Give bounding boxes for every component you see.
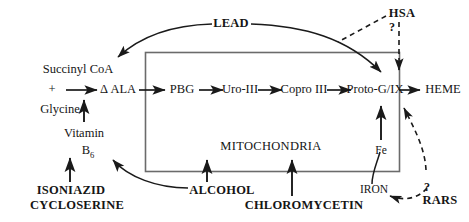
label-rars-question: ? bbox=[424, 181, 430, 194]
line-iron-to-fe bbox=[372, 152, 380, 184]
label-proto-g-ix: Proto-G/IX bbox=[347, 83, 404, 96]
label-cycloserine: CYCLOSERINE bbox=[30, 199, 124, 212]
label-succinyl-coa: Succinyl CoA bbox=[43, 63, 113, 76]
arrow-rars-to-iron bbox=[390, 188, 427, 199]
label-rars: RARS bbox=[423, 194, 458, 207]
arrow-alcohol-to-vitaminb6 bbox=[113, 160, 188, 188]
label-vitamin-b-subscript: 6 bbox=[90, 150, 94, 160]
heme-pathway-diagram: Succinyl CoA + Glycine Δ ALA PBG Uro-III… bbox=[0, 0, 469, 222]
label-vitamin: Vitamin bbox=[64, 127, 104, 140]
label-chloromycetin: CHLOROMYCETIN bbox=[245, 199, 364, 212]
label-alcohol: ALCOHOL bbox=[189, 184, 254, 197]
label-heme: HEME bbox=[425, 83, 460, 96]
label-lead: LEAD bbox=[213, 17, 249, 30]
label-vitamin-b6: B6 bbox=[82, 144, 95, 159]
mitochondria-box bbox=[146, 53, 400, 172]
label-hsa: HSA bbox=[389, 7, 415, 20]
label-plus-sign: + bbox=[48, 83, 55, 96]
label-copro-iii: Copro III bbox=[281, 83, 328, 96]
label-iron: IRON bbox=[360, 183, 388, 195]
label-isoniazid: ISONIAZID bbox=[37, 184, 106, 197]
arrow-lead-to-protog bbox=[251, 24, 381, 72]
label-pbg: PBG bbox=[170, 83, 194, 96]
label-hsa-question: ? bbox=[389, 21, 395, 34]
label-fe: Fe bbox=[375, 144, 387, 156]
arrow-rars-to-heme bbox=[404, 108, 426, 170]
label-uro-iii: Uro-III bbox=[222, 83, 258, 96]
label-glycine: Glycine bbox=[40, 103, 80, 116]
line-hsa-branch bbox=[338, 16, 386, 42]
label-delta-ala: Δ ALA bbox=[100, 83, 136, 96]
label-mitochondria: MITOCHONDRIA bbox=[220, 140, 321, 153]
